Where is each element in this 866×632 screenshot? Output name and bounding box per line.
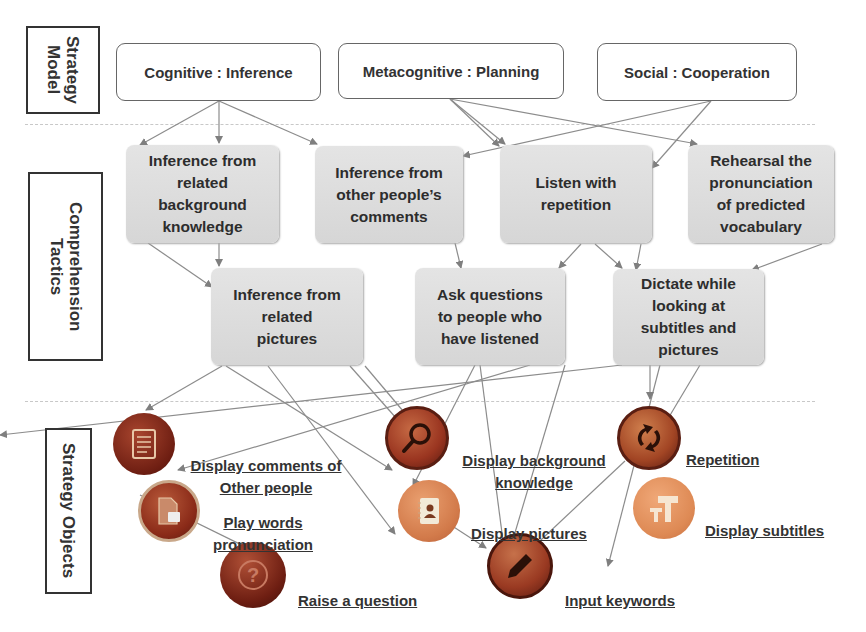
divider-tactics-objects <box>25 401 815 402</box>
tactic-ask-questions[interactable]: Ask questions to people who have listene… <box>415 268 565 365</box>
tactic-dictate-subtitles-label: Dictate while looking at subtitles and p… <box>641 273 737 361</box>
object-label-display-subtitles[interactable]: Display subtitles <box>705 498 855 542</box>
strategy-diagram: Strategy Model Comprehension Tactics Str… <box>0 0 866 632</box>
object-label-repetition[interactable]: Repetition <box>686 427 786 471</box>
section-label-strategy-objects-text: Strategy Objects <box>59 443 78 578</box>
tactic-listen-repetition[interactable]: Listen with repetition <box>500 145 652 243</box>
object-label-input-keywords[interactable]: Input keywords <box>565 568 705 612</box>
object-label-display-pictures-text: Display pictures <box>471 525 587 542</box>
model-box-metacognitive[interactable]: Metacognitive : Planning <box>338 43 564 99</box>
tactic-inference-comments-label: Inference from other people’s comments <box>335 162 443 228</box>
section-label-comprehension-tactics: Comprehension Tactics <box>28 172 103 361</box>
object-label-raise-question-text: Raise a question <box>298 592 417 609</box>
model-box-cognitive-label: Cognitive : Inference <box>144 64 292 81</box>
tactic-inference-pictures[interactable]: Inference from related pictures <box>211 268 363 365</box>
object-label-display-background-text: Display background knowledge <box>462 452 605 491</box>
object-label-repetition-text: Repetition <box>686 451 759 468</box>
object-label-play-words-text: Play words pronunciation <box>213 514 313 553</box>
section-label-strategy-objects: Strategy Objects <box>45 428 92 594</box>
tactic-inference-pictures-label: Inference from related pictures <box>233 284 341 350</box>
document-list-icon[interactable] <box>113 413 175 475</box>
section-label-comprehension-tactics-text: Comprehension Tactics <box>47 202 85 331</box>
tactic-listen-repetition-label: Listen with repetition <box>536 172 617 216</box>
object-label-play-words[interactable]: Play words pronunciation <box>203 490 323 556</box>
object-label-raise-question[interactable]: Raise a question <box>298 568 438 612</box>
object-label-display-background[interactable]: Display background knowledge <box>448 428 620 494</box>
tactic-ask-questions-label: Ask questions to people who have listene… <box>437 284 543 350</box>
model-box-social[interactable]: Social : Cooperation <box>597 43 797 101</box>
tactic-inference-background-label: Inference from related background knowle… <box>149 150 257 238</box>
section-label-strategy-model: Strategy Model <box>26 26 100 114</box>
object-label-display-pictures[interactable]: Display pictures <box>471 501 611 545</box>
tactic-inference-background[interactable]: Inference from related background knowle… <box>126 145 279 243</box>
tactic-dictate-subtitles[interactable]: Dictate while looking at subtitles and p… <box>613 269 764 365</box>
text-t-icon[interactable] <box>633 477 695 539</box>
tactic-inference-comments[interactable]: Inference from other people’s comments <box>315 146 463 243</box>
divider-model-tactics <box>25 124 815 125</box>
magnifier-icon[interactable] <box>385 406 449 470</box>
object-label-input-keywords-text: Input keywords <box>565 592 675 609</box>
tactic-rehearsal-pronunciation-label: Rehearsal the pronunciation of predicted… <box>709 150 812 238</box>
model-box-metacognitive-label: Metacognitive : Planning <box>363 63 540 80</box>
model-box-social-label: Social : Cooperation <box>624 64 770 81</box>
object-label-display-subtitles-text: Display subtitles <box>705 522 824 539</box>
section-label-strategy-model-text: Strategy Model <box>44 36 82 104</box>
model-box-cognitive[interactable]: Cognitive : Inference <box>116 43 321 101</box>
tactic-rehearsal-pronunciation[interactable]: Rehearsal the pronunciation of predicted… <box>688 145 834 243</box>
svg-text:?: ? <box>247 564 259 586</box>
refresh-arrows-icon[interactable] <box>617 406 681 470</box>
